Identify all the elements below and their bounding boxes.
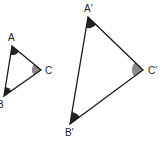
label-c: C — [45, 65, 52, 76]
large-triangle: A′ C′ B′ — [65, 3, 157, 138]
label-b: B — [0, 99, 4, 110]
label-a-prime: A′ — [84, 3, 93, 14]
similar-triangles-diagram: A C B A′ C′ B′ — [0, 0, 163, 145]
label-a: A — [8, 32, 15, 43]
label-b-prime: B′ — [65, 127, 74, 138]
label-c-prime: C′ — [148, 65, 157, 76]
small-triangle: A C B — [0, 32, 52, 110]
